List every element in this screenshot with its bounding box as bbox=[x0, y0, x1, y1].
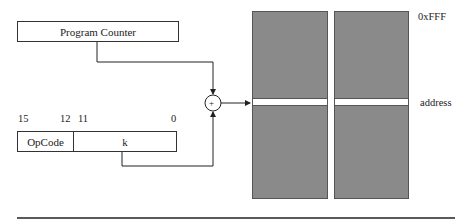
address-row-right bbox=[335, 98, 408, 106]
bit-label-12: 12 bbox=[60, 113, 71, 125]
memory-block-left bbox=[252, 11, 328, 199]
memory-block-right bbox=[334, 11, 409, 199]
bit-label-15: 15 bbox=[18, 113, 29, 125]
k-label: k bbox=[122, 136, 128, 148]
program-counter-label: Program Counter bbox=[60, 26, 136, 38]
address-row-left bbox=[253, 98, 327, 106]
address-label: address bbox=[420, 97, 452, 109]
k-field: k bbox=[73, 131, 177, 152]
opcode-label: OpCode bbox=[27, 136, 64, 148]
bit-label-0: 0 bbox=[171, 113, 176, 125]
memory-top-label: 0xFFF bbox=[418, 11, 446, 23]
opcode-field: OpCode bbox=[17, 131, 74, 152]
bit-label-11: 11 bbox=[78, 113, 88, 125]
adder-symbol: + bbox=[209, 97, 214, 109]
program-counter-box: Program Counter bbox=[17, 21, 179, 42]
